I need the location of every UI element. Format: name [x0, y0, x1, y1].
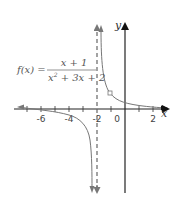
- curve-right-branch: [101, 28, 164, 108]
- hole-point: [108, 91, 112, 95]
- function-label: f(x) = x + 1 x2 + 3x + 2: [16, 57, 105, 83]
- function-name: f(x) =: [16, 64, 46, 75]
- curve-top-arrow: [99, 25, 104, 32]
- tick-label-0: 0: [114, 114, 120, 124]
- numerator: x + 1: [61, 57, 88, 68]
- y-axis-label: y: [114, 19, 122, 32]
- function-graph: -6 -4 -2 0 2 x y f(x) = x + 1 x2 + 3x + …: [0, 0, 177, 208]
- tick-label-neg6: -6: [37, 114, 46, 124]
- curve-bottom-arrow: [90, 186, 95, 193]
- tick-label-2: 2: [150, 114, 156, 124]
- curve-left-branch: [22, 108, 92, 190]
- denominator: x2 + 3x + 2: [48, 71, 105, 83]
